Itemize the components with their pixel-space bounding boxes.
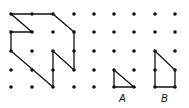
shape-a-label: A <box>119 93 126 104</box>
grid-dot <box>173 49 177 53</box>
grid-dot <box>132 12 136 16</box>
grid-dot <box>92 85 96 89</box>
grid-dot <box>72 85 76 89</box>
grid-dot <box>92 30 96 34</box>
grid-dot <box>92 12 96 16</box>
grid-dot <box>51 30 55 34</box>
grid-dot <box>132 30 136 34</box>
shape-b-label: B <box>161 93 168 104</box>
grid-dot <box>132 68 136 72</box>
grid-dot <box>153 12 157 16</box>
grid-dot <box>30 85 34 89</box>
grid-dot <box>72 12 76 16</box>
grid-dot <box>112 30 116 34</box>
grid-dot <box>153 30 157 34</box>
grid-dot <box>132 49 136 53</box>
grid-dot <box>112 49 116 53</box>
shape-b-quadrilateral <box>155 51 175 87</box>
main-polygon <box>11 14 74 87</box>
dot-grid-diagram <box>0 0 189 108</box>
grid-dot <box>92 49 96 53</box>
grid-dot <box>30 49 34 53</box>
grid-dots <box>9 12 177 89</box>
grid-dot <box>9 68 13 72</box>
grid-dot <box>9 85 13 89</box>
shape-a-triangle <box>114 70 134 87</box>
grid-dot <box>173 30 177 34</box>
grid-dot <box>173 12 177 16</box>
grid-dot <box>92 68 96 72</box>
grid-dot <box>112 12 116 16</box>
